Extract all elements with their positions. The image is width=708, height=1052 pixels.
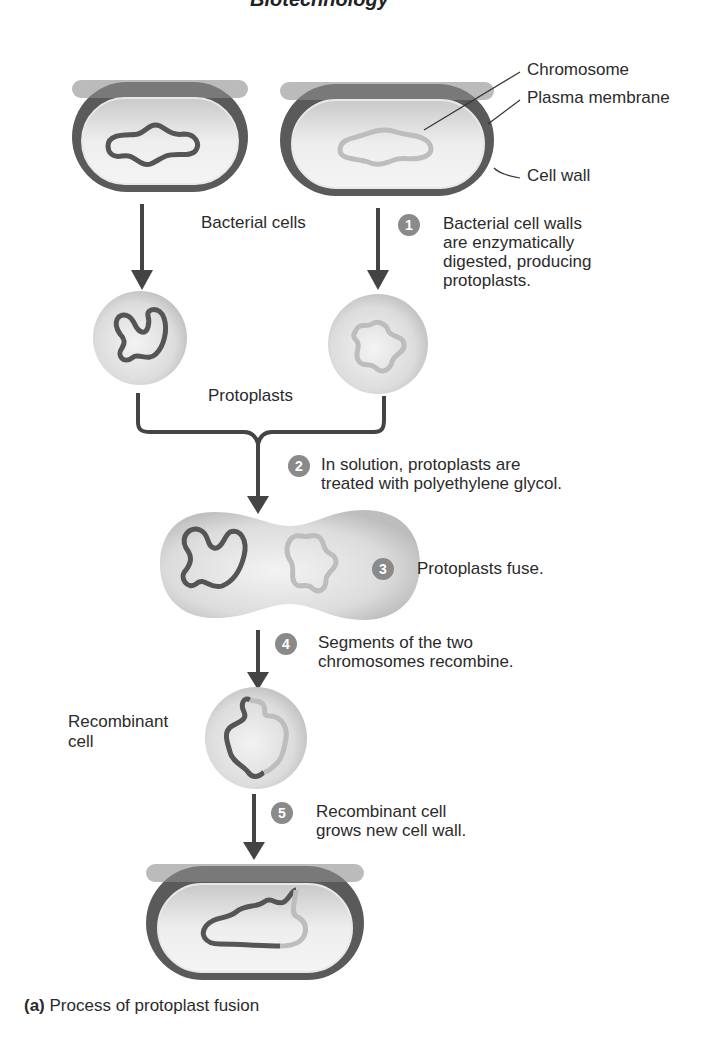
label-recombinant-cell: Recombinant cell: [68, 712, 168, 752]
step-3-text: Protoplasts fuse.: [417, 559, 657, 578]
step-2-badge: 2: [288, 455, 310, 477]
caption-prefix: (a): [24, 996, 45, 1015]
label-plasma-membrane: Plasma membrane: [527, 88, 670, 108]
step-4-text: Segments of the two chromosomes recombin…: [318, 633, 618, 671]
step-4-badge: 4: [275, 633, 297, 655]
protoplast-fusion-diagram: [0, 0, 708, 1052]
final-bacterial-cell: [146, 864, 364, 980]
bacterial-cell-right: [280, 82, 494, 196]
protoplast-right: [328, 294, 428, 394]
step-3-badge: 3: [372, 558, 394, 580]
label-chromosome: Chromosome: [527, 60, 629, 80]
figure-caption: (a) Process of protoplast fusion: [24, 996, 259, 1016]
step-5-text: Recombinant cell grows new cell wall.: [316, 802, 576, 840]
step-1-text: Bacterial cell walls are enzymatically d…: [443, 214, 683, 290]
label-protoplasts: Protoplasts: [208, 386, 293, 406]
label-bacterial-cells: Bacterial cells: [201, 213, 306, 233]
step-1-badge: 1: [398, 214, 420, 236]
bacterial-cell-left: [72, 80, 248, 192]
caption-text: Process of protoplast fusion: [45, 996, 260, 1015]
recombinant-protoplast: [205, 687, 307, 789]
step-5-badge: 5: [271, 802, 293, 824]
protoplast-left: [93, 291, 187, 385]
step-2-text: In solution, protoplasts are treated wit…: [321, 455, 701, 493]
label-cell-wall: Cell wall: [527, 166, 590, 186]
